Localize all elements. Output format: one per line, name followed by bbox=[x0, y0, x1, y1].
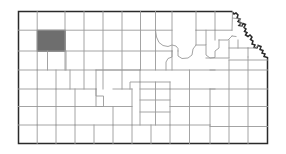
county-ne-row-b bbox=[232, 36, 236, 37]
kansas-locator-map: Outline map of the state of Kansas showi… bbox=[0, 0, 286, 154]
highlighted-county-group bbox=[37, 30, 65, 51]
kansas-map-svg bbox=[0, 0, 286, 154]
highlighted-county bbox=[37, 30, 65, 51]
county-col-divider-11 bbox=[232, 12, 233, 31]
